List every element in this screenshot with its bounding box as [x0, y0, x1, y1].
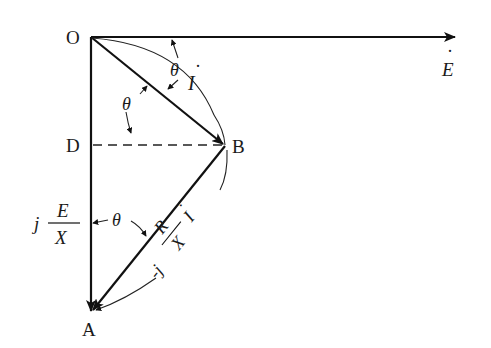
theta-mid-arrow-down	[126, 112, 131, 133]
vector-i	[91, 37, 223, 144]
label-e: E	[441, 59, 454, 80]
label-theta-top: θ	[170, 60, 179, 80]
theta-bottom-arrow-left	[93, 220, 108, 223]
theta-mid-arrow-up	[140, 86, 147, 94]
svg-text:X: X	[54, 227, 68, 248]
theta-top-arrow-up	[172, 40, 178, 58]
label-je-over-x: j E X	[31, 200, 80, 248]
label-point-o: O	[66, 27, 80, 48]
label-minus-jr-over-x-i: -j R X · I	[126, 196, 208, 282]
svg-text:j: j	[31, 213, 39, 234]
label-i-dot: ·	[195, 56, 201, 76]
label-e-dot: ·	[447, 41, 453, 61]
label-point-d: D	[66, 135, 80, 156]
svg-text:I: I	[179, 207, 200, 226]
arc-ob	[92, 38, 214, 115]
label-point-b: B	[232, 136, 245, 157]
arc-ba	[220, 150, 227, 190]
svg-text:-j: -j	[145, 261, 167, 282]
label-i: I	[187, 72, 196, 94]
label-theta-mid: θ	[122, 94, 131, 114]
svg-text:E: E	[56, 200, 69, 221]
label-theta-bottom: θ	[112, 210, 121, 230]
phasor-diagram: O D B A · E · I θ θ θ j E X -j R X · I	[0, 0, 491, 348]
label-point-a: A	[82, 319, 96, 340]
theta-top-arrow-down	[168, 80, 178, 89]
theta-bottom-arrow-right	[131, 221, 146, 236]
